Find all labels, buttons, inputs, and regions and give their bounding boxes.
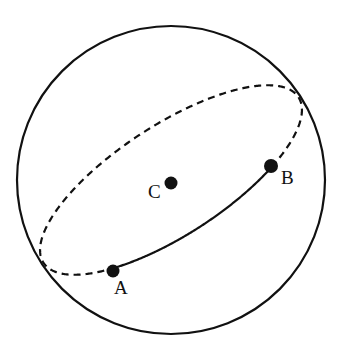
point-label-b: B bbox=[281, 168, 294, 187]
point-marker-b bbox=[264, 159, 278, 173]
sphere-diagram: A B C bbox=[0, 0, 341, 354]
point-label-c: C bbox=[148, 182, 161, 201]
point-marker-a bbox=[107, 265, 120, 278]
great-circle-front-arc-solid bbox=[112, 167, 272, 269]
point-label-a: A bbox=[114, 278, 128, 297]
point-marker-c-center bbox=[165, 177, 178, 190]
